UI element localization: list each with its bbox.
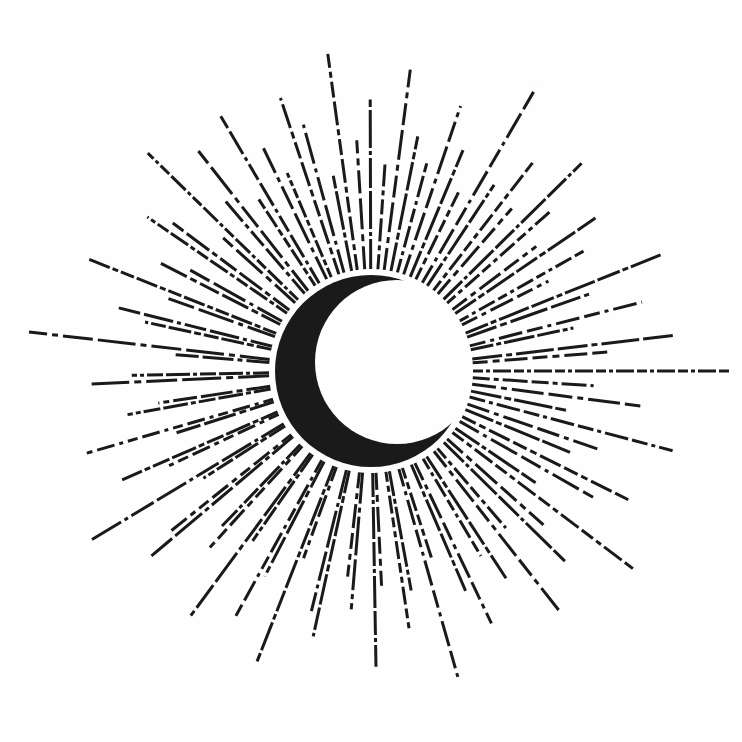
sun-ray (128, 389, 271, 415)
crescent-moon-sunburst-graphic (0, 0, 742, 742)
sun-ray (132, 373, 269, 376)
sun-ray (376, 473, 382, 586)
sun-ray (373, 473, 376, 667)
sun-ray (145, 322, 271, 349)
sun-ray (391, 136, 418, 271)
sun-ray (88, 259, 276, 333)
sun-ray (473, 378, 594, 386)
sun-ray (447, 212, 550, 303)
sun-ray (174, 402, 274, 434)
crescent-moon (275, 275, 467, 467)
sun-ray (90, 424, 284, 541)
sun-ray (333, 176, 351, 271)
sun-ray (92, 376, 269, 384)
moon-illustration (0, 0, 742, 742)
sun-ray (304, 467, 337, 558)
sun-ray (313, 471, 349, 637)
sun-ray (452, 432, 632, 568)
sun-ray (263, 148, 326, 279)
sun-ray (328, 54, 357, 270)
sun-ray (287, 173, 331, 277)
sun-ray (222, 445, 300, 527)
sun-ray (422, 87, 536, 282)
sun-ray (460, 421, 593, 497)
sun-ray (378, 164, 385, 269)
sun-ray (434, 451, 559, 610)
sun-ray (280, 98, 338, 274)
sun-ray (253, 455, 313, 541)
sun-ray (357, 140, 365, 269)
sun-ray (147, 217, 287, 313)
sun-ray (311, 470, 346, 611)
sun-ray (386, 472, 410, 632)
sun-ray (151, 437, 293, 557)
sun-ray (427, 456, 506, 578)
